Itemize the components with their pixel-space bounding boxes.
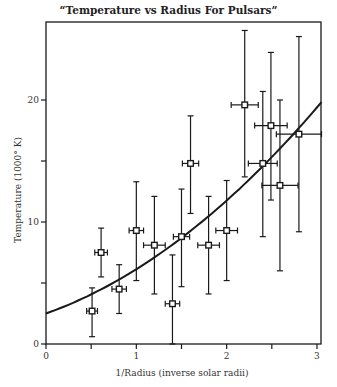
open-square-marker xyxy=(116,286,122,292)
open-square-marker xyxy=(89,308,95,314)
data-point xyxy=(112,265,126,314)
y-tick-label: 0 xyxy=(33,339,39,349)
x-axis-label: 1/Radius (inverse solar radii) xyxy=(116,368,249,378)
data-point xyxy=(144,196,166,294)
scatter-chart: 012301020 1/Radius (inverse solar radii)… xyxy=(0,0,337,387)
open-square-marker xyxy=(98,250,104,256)
x-tick-label: 1 xyxy=(133,351,139,361)
data-points xyxy=(87,30,322,344)
x-tick-label: 2 xyxy=(224,351,230,361)
open-square-marker xyxy=(134,228,140,234)
data-point xyxy=(173,189,189,287)
open-square-marker xyxy=(260,161,266,167)
data-point xyxy=(216,181,238,281)
open-square-marker xyxy=(179,234,185,240)
y-axis-label: Temperature (1000° K) xyxy=(13,137,23,243)
open-square-marker xyxy=(277,183,283,189)
data-point xyxy=(248,91,277,236)
open-square-marker xyxy=(268,123,274,129)
open-square-marker xyxy=(224,228,230,234)
data-point xyxy=(276,37,321,232)
y-tick-label: 10 xyxy=(28,217,40,227)
x-tick-label: 0 xyxy=(43,351,49,361)
y-tick-label: 20 xyxy=(28,95,40,105)
open-square-marker xyxy=(206,242,212,248)
open-square-marker xyxy=(296,131,302,137)
x-tick-label: 3 xyxy=(314,351,320,361)
open-square-marker xyxy=(242,102,248,108)
open-square-marker xyxy=(170,301,176,307)
open-square-marker xyxy=(188,161,194,167)
data-point xyxy=(231,30,258,176)
data-point xyxy=(95,228,108,277)
data-point xyxy=(182,116,198,214)
data-point xyxy=(165,255,179,344)
data-point xyxy=(255,52,288,200)
open-square-marker xyxy=(152,242,158,248)
